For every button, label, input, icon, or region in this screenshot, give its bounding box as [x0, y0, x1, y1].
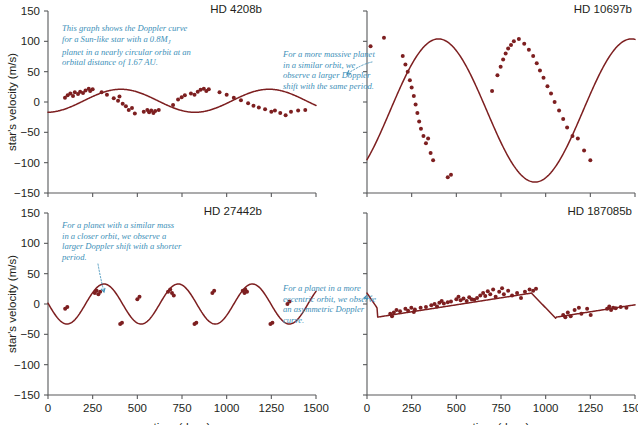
- data-point: [409, 306, 413, 310]
- data-point: [506, 47, 510, 51]
- data-point: [449, 173, 453, 177]
- data-point: [183, 93, 187, 97]
- data-point: [442, 301, 446, 305]
- axes: [367, 11, 635, 193]
- data-point: [495, 73, 499, 77]
- data-point: [483, 294, 487, 298]
- data-point: [124, 104, 128, 108]
- data-point: [232, 96, 236, 100]
- data-point: [239, 98, 243, 102]
- data-point: [91, 87, 95, 91]
- data-point: [153, 109, 157, 113]
- data-point: [189, 92, 193, 96]
- data-point: [569, 314, 573, 318]
- data-point: [100, 90, 104, 94]
- data-point: [382, 36, 386, 40]
- data-point: [577, 306, 581, 310]
- data-point: [117, 95, 121, 99]
- data-point: [607, 304, 611, 308]
- annotation-text: For a more massive planetin a similar or…: [282, 49, 375, 91]
- data-point: [614, 306, 618, 310]
- data-point: [142, 110, 146, 114]
- data-point: [406, 309, 410, 313]
- data-point: [579, 312, 583, 316]
- data-point: [588, 158, 592, 162]
- x-tick-label: 0: [45, 402, 51, 414]
- data-point: [414, 102, 418, 106]
- data-point: [500, 286, 504, 290]
- x-axis-title: time (days): [154, 421, 211, 425]
- data-point: [528, 287, 532, 291]
- data-point: [491, 287, 495, 291]
- data-point: [412, 94, 416, 98]
- data-point: [585, 307, 589, 311]
- data-point: [168, 287, 172, 291]
- x-tick-label: 1000: [214, 402, 240, 414]
- panel-title: HD 4208b: [210, 3, 262, 15]
- annotation-text: For a planet in a moreeccentric orbit, w…: [282, 283, 376, 325]
- data-point: [410, 85, 414, 89]
- data-point: [95, 289, 99, 293]
- data-point: [502, 292, 506, 296]
- x-tick-label: 250: [402, 402, 421, 414]
- data-point: [624, 306, 628, 310]
- y-tick-label: 150: [21, 207, 40, 219]
- data-point: [497, 290, 501, 294]
- fit-curve: [367, 293, 635, 318]
- y-tick-label: −100: [14, 157, 40, 169]
- data-point: [133, 112, 137, 116]
- x-tick-label: 1500: [622, 402, 638, 414]
- data-point: [394, 308, 398, 312]
- x-tick-label: 1250: [578, 402, 604, 414]
- data-point: [121, 102, 125, 106]
- data-point: [522, 42, 526, 46]
- panel-hd-27442b: 150100500−50−100−15002505007501000125015…: [6, 205, 329, 425]
- data-point: [120, 321, 124, 325]
- y-tick-label: 150: [21, 5, 40, 17]
- data-points: [63, 287, 291, 326]
- x-tick-label: 1250: [259, 402, 285, 414]
- data-point: [207, 87, 211, 91]
- data-point: [456, 295, 460, 299]
- y-axis-title: star's velocity (m/s): [6, 53, 18, 151]
- data-point: [553, 100, 557, 104]
- data-point: [130, 106, 134, 110]
- data-point: [419, 306, 423, 310]
- data-point: [517, 37, 521, 41]
- annotation-leader-line: [98, 264, 104, 292]
- data-point: [563, 315, 567, 319]
- data-point: [531, 54, 535, 58]
- data-point: [419, 127, 423, 131]
- x-tick-label: 750: [491, 402, 510, 414]
- data-points: [63, 87, 307, 118]
- y-tick-label: −100: [14, 359, 40, 371]
- data-point: [494, 295, 498, 299]
- data-point: [273, 108, 277, 112]
- y-tick-label: 50: [27, 268, 40, 280]
- data-point: [369, 44, 373, 48]
- panel-title: HD 187085b: [567, 205, 632, 217]
- y-tick-label: −150: [14, 389, 40, 401]
- data-point: [504, 51, 508, 55]
- data-point: [172, 294, 176, 298]
- data-point: [519, 296, 523, 300]
- data-point: [424, 305, 428, 309]
- data-point: [488, 292, 492, 296]
- panel-title: HD 10697b: [574, 3, 632, 15]
- data-point: [390, 314, 394, 318]
- data-point: [545, 84, 549, 88]
- data-point: [499, 65, 503, 69]
- data-point: [269, 110, 273, 114]
- y-tick-label: 0: [34, 96, 40, 108]
- data-point: [582, 149, 586, 153]
- data-point: [278, 111, 282, 115]
- data-point: [570, 134, 574, 138]
- data-point: [296, 108, 300, 112]
- annotation-text: For a planet with a similar massin a clo…: [61, 220, 182, 262]
- x-tick-label: 0: [364, 402, 370, 414]
- data-point: [461, 297, 465, 301]
- x-axis-title: time (days): [473, 421, 530, 425]
- data-point: [417, 119, 421, 123]
- data-point: [105, 93, 109, 97]
- y-tick-label: 0: [34, 298, 40, 310]
